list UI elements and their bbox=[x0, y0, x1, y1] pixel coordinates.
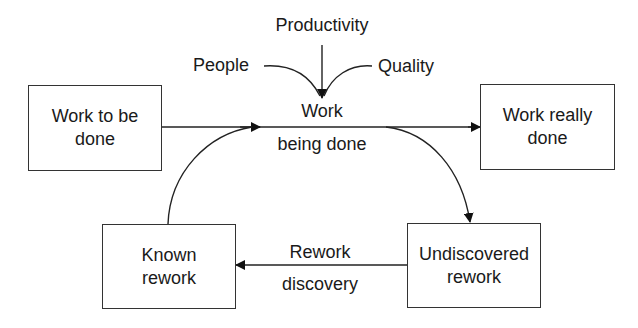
node-label: Work to be done bbox=[45, 105, 145, 151]
label-discovery: discovery bbox=[282, 274, 358, 294]
label-people: People bbox=[193, 55, 249, 75]
quality-curve bbox=[324, 66, 372, 96]
people-curve bbox=[264, 66, 320, 96]
node-label: Undiscovered rework bbox=[410, 243, 538, 289]
node-work-really-done: Work really done bbox=[480, 84, 615, 170]
node-known-rework: Known rework bbox=[102, 224, 236, 309]
label-being-done: being done bbox=[277, 134, 366, 154]
rework-generation-arrow bbox=[386, 127, 470, 222]
node-undiscovered-rework: Undiscovered rework bbox=[407, 223, 541, 308]
label-productivity: Productivity bbox=[275, 15, 368, 35]
node-label: Work really done bbox=[493, 104, 603, 150]
node-label: Known rework bbox=[129, 244, 209, 290]
rework-return-curve bbox=[168, 127, 252, 224]
label-work: Work bbox=[301, 101, 343, 121]
label-quality: Quality bbox=[378, 56, 434, 76]
node-work-to-be-done: Work to be done bbox=[28, 85, 162, 171]
label-rework: Rework bbox=[289, 242, 350, 262]
